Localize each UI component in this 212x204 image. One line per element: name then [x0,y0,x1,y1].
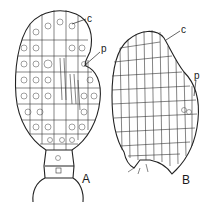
figure-canvas: c p A c p B [0,0,212,204]
panel-b-nuclei [182,108,192,115]
panel-a-p-label: p [101,43,107,54]
panel-b-c-label: c [181,24,186,35]
panel-a-c-leader [72,19,86,24]
panel-a-stalk [33,150,83,202]
panel-a-outline [16,11,101,150]
panel-b-outline [112,31,198,174]
panel-b-drawing [112,30,198,174]
panel-b-label: B [182,173,190,187]
panel-b-c-leader [166,31,180,40]
panel-a-c-label: c [87,13,92,24]
panel-b-p-label: p [194,70,200,81]
panel-a-label: A [82,172,90,186]
panel-b-cells [112,30,197,174]
panel-a-cells [16,10,100,150]
